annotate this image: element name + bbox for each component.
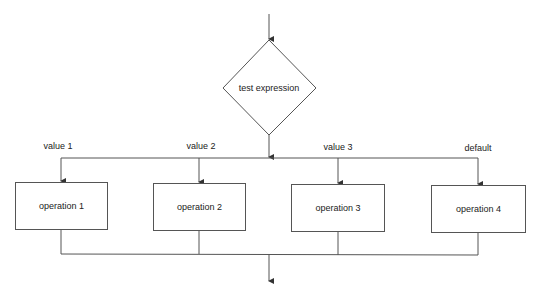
operation-box-1: operation 1	[15, 182, 108, 230]
operation-box-2: operation 2	[153, 183, 246, 231]
decision-label: test expression	[239, 83, 300, 93]
case-label-1: value 1	[43, 141, 72, 151]
operation-label-2: operation 2	[177, 202, 222, 212]
flowchart-connectors	[0, 0, 538, 289]
flowchart-canvas: test expression value 1 value 2 value 3 …	[0, 0, 538, 289]
case-label-2: value 2	[186, 141, 215, 151]
operation-label-3: operation 3	[315, 203, 360, 213]
operation-box-4: operation 4	[431, 185, 526, 233]
operation-box-3: operation 3	[291, 184, 385, 232]
operation-label-1: operation 1	[39, 201, 84, 211]
case-label-3: value 3	[323, 142, 352, 152]
case-label-default: default	[464, 143, 491, 153]
operation-label-4: operation 4	[456, 204, 501, 214]
